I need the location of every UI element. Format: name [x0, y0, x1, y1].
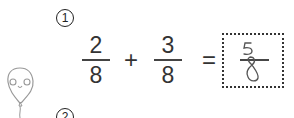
fraction-bar [82, 59, 110, 61]
fraction-b-numerator: 3 [154, 32, 182, 58]
balloon-mascot-icon [4, 66, 36, 118]
problem-number-badge: 1 [56, 9, 74, 27]
fraction-a: 2 8 [82, 32, 110, 88]
equals-sign: = [202, 46, 216, 74]
plus-operator: + [124, 46, 138, 74]
problem-number-badge: 2 [56, 108, 74, 118]
fraction-b-denominator: 8 [154, 62, 182, 88]
handwritten-answer [224, 35, 282, 86]
fraction-bar [154, 59, 182, 61]
answer-input-box[interactable] [222, 33, 284, 88]
fraction-a-numerator: 2 [82, 32, 110, 58]
fraction-b: 3 8 [154, 32, 182, 88]
fraction-a-denominator: 8 [82, 62, 110, 88]
